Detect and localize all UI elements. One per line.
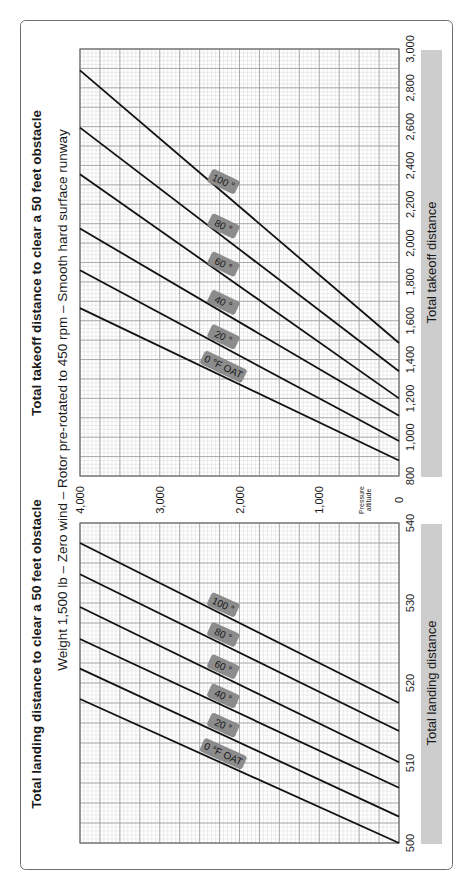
altitude-tick: 3,000 [154, 486, 166, 514]
distance-tick: 3,000 [404, 35, 416, 63]
distance-tick: 500 [404, 834, 416, 852]
altitude-axis-label-line1: Pressure [358, 486, 365, 514]
takeoff-distance-chart: 0 °F OAT20 °40 °60 °80 °100 °8001,0001,2… [80, 35, 442, 485]
altitude-tick: 1,000 [313, 486, 325, 514]
landing-chart-title: Total landing distance to clear a 50 fee… [29, 499, 44, 809]
distance-tick: 510 [404, 754, 416, 772]
altitude-tick: 0 [393, 497, 405, 503]
landing-distance-chart: 0 °F OAT20 °40 °60 °80 °100 °50051052053… [80, 514, 442, 852]
takeoff-chart-title: Total takeoff distance to clear a 50 fee… [29, 110, 44, 416]
altitude-tick: 4,000 [74, 486, 86, 514]
distance-tick: 520 [404, 674, 416, 692]
distance-tick: 1,200 [404, 385, 416, 413]
distance-tick: 1,000 [404, 423, 416, 451]
distance-axis-title: Total takeoff distance [424, 202, 439, 324]
distance-tick: 2,800 [404, 74, 416, 102]
distance-tick: 2,600 [404, 113, 416, 141]
distance-tick: 1,800 [404, 268, 416, 296]
altitude-axis-label-line2: altitude [365, 489, 372, 512]
altitude-tick: 2,000 [234, 486, 246, 514]
performance-charts: Total takeoff distance to clear a 50 fee… [0, 0, 475, 890]
chart-subtitle: Weight 1,500 lb – Zero wind – Rotor pre-… [55, 129, 70, 671]
distance-axis-title: Total landing distance [424, 620, 439, 745]
performance-chart-page: Total takeoff distance to clear a 50 fee… [0, 0, 475, 890]
distance-tick: 2,400 [404, 152, 416, 180]
distance-tick: 2,000 [404, 229, 416, 257]
distance-tick: 540 [404, 514, 416, 532]
distance-tick: 800 [404, 467, 416, 485]
distance-tick: 2,200 [404, 191, 416, 219]
distance-tick: 1,600 [404, 307, 416, 335]
distance-tick: 1,400 [404, 346, 416, 374]
distance-tick: 530 [404, 594, 416, 612]
